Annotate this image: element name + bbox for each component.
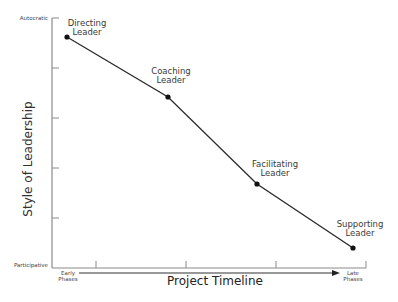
point-facilitating xyxy=(254,181,259,186)
y-top-label: Autocratic xyxy=(8,15,48,21)
label-directing: Directing Leader xyxy=(64,19,110,38)
x-start-label: Early Phases xyxy=(56,270,80,282)
label-supporting: Supporting Leader xyxy=(334,220,386,239)
chart-canvas xyxy=(0,0,398,302)
leadership-line xyxy=(67,37,353,248)
label-coaching: Coaching Leader xyxy=(148,67,194,86)
label-facilitating: Facilitating Leader xyxy=(249,160,301,179)
point-coaching xyxy=(165,94,170,99)
x-end-label: Late Phases xyxy=(341,270,365,282)
arrow-head-icon xyxy=(332,270,340,276)
y-bottom-label: Participative xyxy=(4,262,48,268)
y-axis-title: Style of Leadership xyxy=(21,97,35,221)
x-axis-title: Project Timeline xyxy=(160,274,270,288)
point-supporting xyxy=(350,245,355,250)
